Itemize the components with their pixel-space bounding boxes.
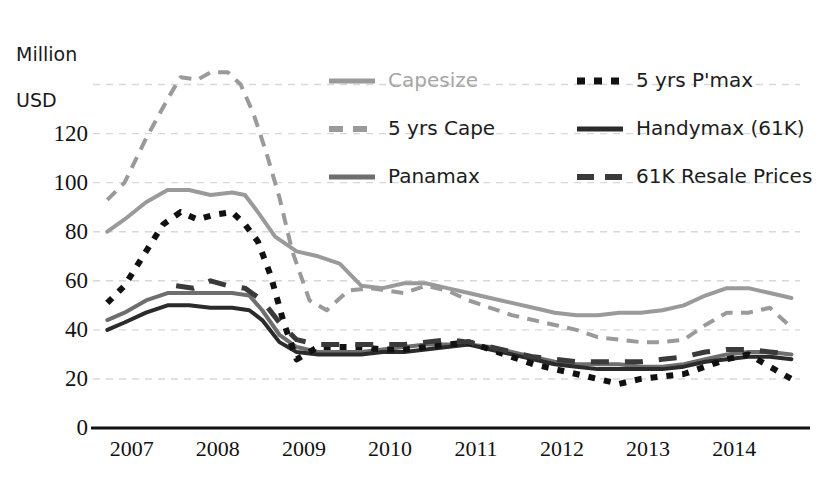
- legend-label: Handymax (61K): [636, 116, 805, 140]
- legend-label: Panamax: [388, 164, 480, 188]
- series-line-capesize: [107, 190, 791, 315]
- legend-item-panamax[interactable]: Panamax: [328, 164, 480, 188]
- x-axis-tick-2007: 2007: [87, 436, 177, 462]
- y-axis-tick-20: 20: [14, 366, 88, 392]
- legend-swatch-icon: [328, 73, 376, 87]
- legend-swatch-icon: [576, 121, 624, 135]
- x-axis-tick-2012: 2012: [517, 436, 607, 462]
- chart-legend: Capesize5 yrs P'max5 yrs CapeHandymax (6…: [328, 68, 798, 188]
- legend-label: Capesize: [388, 68, 478, 92]
- legend-item-5-yrs-cape[interactable]: 5 yrs Cape: [328, 116, 495, 140]
- y-axis-tick-80: 80: [14, 219, 88, 245]
- legend-swatch-icon: [576, 169, 624, 183]
- x-axis-tick-2008: 2008: [173, 436, 263, 462]
- legend-item-61k-resale-prices[interactable]: 61K Resale Prices: [576, 164, 812, 188]
- legend-swatch-icon: [328, 121, 376, 135]
- chart-canvas: Million USD 020406080100120 200720082009…: [0, 0, 828, 486]
- series-line-5-yrs-p-max: [107, 212, 791, 384]
- x-axis-tick-2013: 2013: [603, 436, 693, 462]
- y-axis-tick-0: 0: [14, 415, 88, 441]
- y-axis-tick-120: 120: [14, 121, 88, 147]
- legend-item-capesize[interactable]: Capesize: [328, 68, 478, 92]
- y-axis-tick-100: 100: [14, 170, 88, 196]
- legend-item-handymax-61k[interactable]: Handymax (61K): [576, 116, 805, 140]
- x-axis-tick-2014: 2014: [689, 436, 779, 462]
- x-axis-tick-2010: 2010: [345, 436, 435, 462]
- legend-swatch-icon: [576, 73, 624, 87]
- x-axis-tick-2011: 2011: [431, 436, 521, 462]
- legend-swatch-icon: [328, 169, 376, 183]
- y-axis-tick-40: 40: [14, 317, 88, 343]
- legend-label: 5 yrs P'max: [636, 68, 753, 92]
- legend-item-5-yrs-p-max[interactable]: 5 yrs P'max: [576, 68, 753, 92]
- y-axis-tick-60: 60: [14, 268, 88, 294]
- legend-label: 5 yrs Cape: [388, 116, 495, 140]
- x-axis-tick-2009: 2009: [259, 436, 349, 462]
- legend-label: 61K Resale Prices: [636, 164, 812, 188]
